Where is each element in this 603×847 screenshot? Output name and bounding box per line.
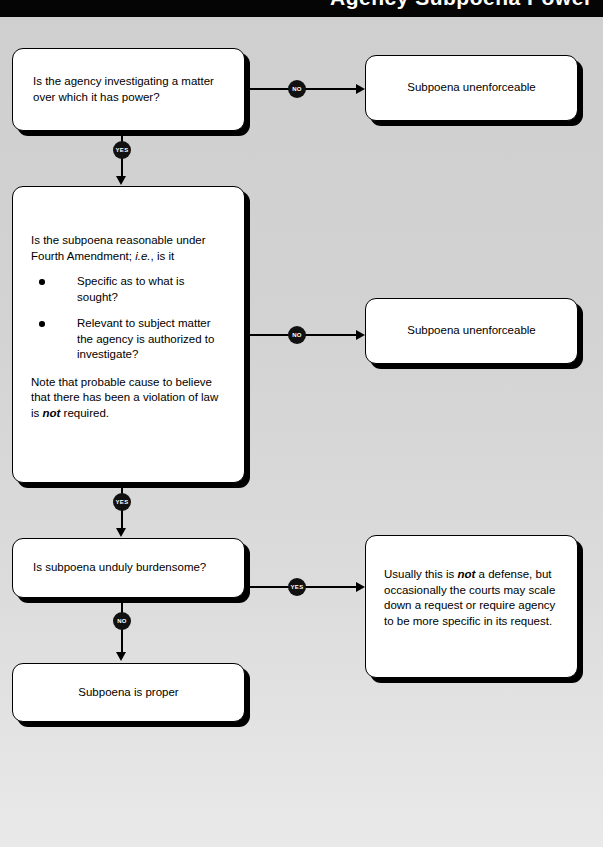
bullet-dot-icon <box>39 279 45 285</box>
node-q2-bullet-2: Relevant to subject matter the agency is… <box>77 317 214 360</box>
header-band: Agency Subpoena Power <box>0 0 603 17</box>
node-q1-agency-power[interactable]: Is the agency investigating a matter ove… <box>12 48 245 131</box>
edge-q1-no-arrowhead <box>356 84 365 94</box>
node-q2-bullet-1: Specific as to what is sought? <box>77 275 184 303</box>
list-item: Relevant to subject matter the agency is… <box>31 316 226 363</box>
node-out2-unenforceable[interactable]: Subpoena unenforceable <box>365 298 578 364</box>
edge-q1-yes-arrowhead <box>116 176 126 185</box>
node-out1-text: Subpoena unenforceable <box>407 80 536 96</box>
page-title: Agency Subpoena Power <box>330 0 593 10</box>
edge-label-q3-no: NO <box>113 612 131 630</box>
bullet-dot-icon <box>39 321 45 327</box>
node-out3-defense-note[interactable]: Usually this is not a defense, but occas… <box>365 535 578 678</box>
edge-q2-yes-arrowhead <box>116 528 126 537</box>
node-q2-bullet-list: Specific as to what is sought? Relevant … <box>31 274 226 363</box>
node-q2-lead-part2: , is it <box>151 250 175 262</box>
edge-q2-no-arrowhead <box>356 330 365 340</box>
node-q2-fourth-amendment[interactable]: Is the subpoena reasonable under Fourth … <box>12 186 245 483</box>
node-out2-text: Subpoena unenforceable <box>407 323 536 339</box>
node-out3-emphasis: not <box>458 568 476 580</box>
node-q3-text: Is subpoena unduly burdensome? <box>33 560 206 576</box>
node-q3-unduly-burdensome[interactable]: Is subpoena unduly burdensome? <box>12 538 245 598</box>
edge-label-q3-yes: YES <box>288 578 306 596</box>
node-out3-text: Usually this is not a defense, but occas… <box>384 567 559 629</box>
node-out3-part1: Usually this is <box>384 568 458 580</box>
node-q2-note-emphasis: not <box>43 407 61 419</box>
flowchart-canvas: Agency Subpoena Power Is the agency inve… <box>0 0 603 847</box>
node-q2-note: Note that probable cause to believe that… <box>31 375 226 422</box>
edge-label-q1-yes: YES <box>113 141 131 159</box>
node-q2-lead-italic: i.e. <box>135 250 150 262</box>
list-item: Specific as to what is sought? <box>31 274 226 305</box>
node-q1-text: Is the agency investigating a matter ove… <box>33 74 224 105</box>
edge-q3-yes-arrowhead <box>356 582 365 592</box>
edge-label-q2-yes: YES <box>113 493 131 511</box>
node-q2-lead-text: Is the subpoena reasonable under Fourth … <box>31 233 226 264</box>
node-final-text: Subpoena is proper <box>78 685 178 701</box>
node-out1-unenforceable[interactable]: Subpoena unenforceable <box>365 55 578 121</box>
node-q2-note-part2: required. <box>60 407 109 419</box>
edge-label-q1-no: NO <box>288 80 306 98</box>
node-q2-lead-part1: Is the subpoena reasonable under Fourth … <box>31 234 206 262</box>
node-final-subpoena-proper[interactable]: Subpoena is proper <box>12 663 245 722</box>
edge-label-q2-no: NO <box>288 326 306 344</box>
edge-q3-no-arrowhead <box>116 652 126 661</box>
